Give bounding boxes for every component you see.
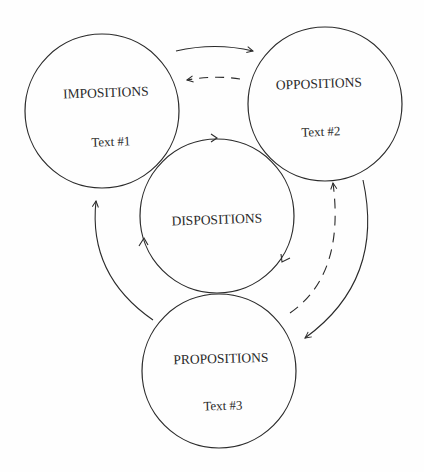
diagram-canvas: IMPOSITIONS Text #1 OPPOSITIONS Text #2 … (0, 0, 424, 472)
oppositions-text-label: Text #2 (301, 123, 341, 139)
dispositions-arrowhead-left (139, 238, 148, 246)
dispositions-label: DISPOSITIONS (171, 210, 262, 228)
impositions-label: IMPOSITIONS (63, 84, 149, 102)
dispositions-arrowhead-top (211, 134, 217, 142)
propositions-circle (142, 294, 296, 448)
impositions-text-label: Text #1 (91, 133, 131, 149)
oppositions-circle (248, 27, 402, 181)
arrow-oppositions-to-propositions (305, 180, 368, 338)
oppositions-label: OPPOSITIONS (275, 75, 362, 93)
arrow-propositions-to-oppositions (290, 183, 335, 313)
propositions-text-label: Text #3 (203, 397, 243, 413)
arrow-propositions-to-impositions (95, 201, 153, 320)
arrow-oppositions-to-impositions (187, 77, 240, 80)
diagram-svg: IMPOSITIONS Text #1 OPPOSITIONS Text #2 … (0, 0, 424, 472)
impositions-circle (25, 34, 179, 188)
dispositions-arrowhead-right (281, 254, 290, 262)
propositions-label: PROPOSITIONS (173, 350, 269, 367)
arrow-impositions-to-oppositions (176, 47, 253, 52)
